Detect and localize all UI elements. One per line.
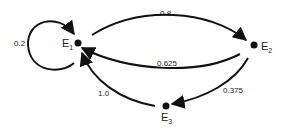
node-e3: [163, 103, 170, 110]
node-label-e1: E1: [62, 37, 73, 51]
diagram-svg: E1 E2 E3 0.2 0.8 0.625 0.375 1.0: [0, 0, 282, 130]
markov-chain-diagram: E1 E2 E3 0.2 0.8 0.625 0.375 1.0: [0, 0, 282, 130]
node-e1: [75, 40, 82, 47]
edge-label-e3-e1: 1.0: [98, 89, 110, 98]
edge-label-e1-e2: 0.8: [160, 9, 172, 18]
edge-label-e2-e1: 0.625: [157, 59, 178, 68]
node-label-e2: E2: [261, 40, 272, 54]
node-e2: [251, 42, 258, 49]
edge-e1-e2: [92, 15, 246, 40]
edge-label-e2-e3: 0.375: [223, 86, 244, 95]
node-label-e3: E3: [161, 111, 172, 125]
edge-label-e1-e1: 0.2: [14, 39, 26, 48]
